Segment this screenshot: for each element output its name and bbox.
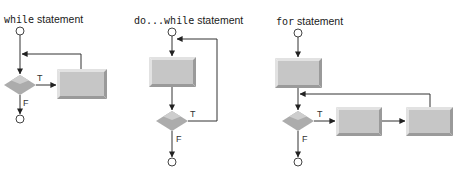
for-initialization-box xyxy=(275,58,322,88)
do-while-title-keyword: do...while xyxy=(134,15,194,26)
do-while-body-box-bevel-top xyxy=(149,57,196,60)
do-while-body-box-face xyxy=(152,60,193,84)
while-true-label: T xyxy=(37,73,43,83)
do-while-body-box-bevel-left xyxy=(149,57,152,87)
repetition-statements-figure: while statement T F do...while statement… xyxy=(0,0,458,178)
do-while-body-box-bevel-bottom xyxy=(149,84,196,87)
while-body-box-face xyxy=(60,72,104,96)
for-start-node xyxy=(294,29,302,37)
for-initialization-box-bevel-bottom xyxy=(275,85,322,88)
do-while-false-label: F xyxy=(176,134,182,144)
for-diagram: for statement T F xyxy=(275,15,453,166)
while-body-box-bevel-top xyxy=(57,69,107,72)
for-loop-back-arrow xyxy=(300,94,430,107)
while-end-node xyxy=(16,115,24,123)
do-while-title-suffix: statement xyxy=(194,14,243,26)
while-start-node xyxy=(16,27,24,35)
for-body-box-bevel-bottom xyxy=(336,133,382,136)
do-while-end-node xyxy=(168,158,176,166)
for-initialization-box-bevel-right xyxy=(319,58,322,88)
for-initialization-box-bevel-top xyxy=(275,58,322,61)
while-title: while statement xyxy=(4,13,83,25)
for-increment-box-bevel-bottom xyxy=(406,133,453,136)
for-increment-box-bevel-top xyxy=(406,107,453,110)
for-body-box-face xyxy=(339,110,379,133)
for-initialization-box-bevel-left xyxy=(275,58,278,88)
for-initialization-box-face xyxy=(278,61,319,85)
while-body-box-bevel-right xyxy=(104,69,107,99)
for-title-suffix: statement xyxy=(294,15,343,27)
while-false-label: F xyxy=(23,98,29,108)
while-loop-back-arrow xyxy=(22,54,81,69)
while-body-box-bevel-left xyxy=(57,69,60,99)
do-while-diagram: do...while statement T F xyxy=(134,14,243,166)
for-end-node xyxy=(294,158,302,166)
for-title-keyword: for xyxy=(276,16,294,27)
do-while-decision-diamond xyxy=(156,111,188,131)
for-decision-diamond xyxy=(282,111,314,131)
do-while-title: do...while statement xyxy=(134,14,243,26)
do-while-true-label: T xyxy=(190,109,196,119)
for-body-box-bevel-left xyxy=(336,107,339,136)
for-body-box-bevel-right xyxy=(379,107,382,136)
for-false-label: F xyxy=(302,134,308,144)
while-title-suffix: statement xyxy=(34,13,83,25)
do-while-start-node xyxy=(168,28,176,36)
while-title-keyword: while xyxy=(4,14,34,25)
for-increment-box xyxy=(406,107,453,136)
while-body-box-bevel-bottom xyxy=(57,96,107,99)
do-while-body-box-bevel-right xyxy=(193,57,196,87)
while-body-box xyxy=(57,69,107,99)
for-increment-box-face xyxy=(409,110,450,133)
while-decision-diamond xyxy=(4,75,36,95)
for-body-box xyxy=(336,107,382,136)
for-true-label: T xyxy=(317,109,323,119)
for-increment-box-bevel-left xyxy=(406,107,409,136)
for-body-box-bevel-top xyxy=(336,107,382,110)
for-title: for statement xyxy=(276,15,343,27)
for-increment-box-bevel-right xyxy=(450,107,453,136)
while-diagram: while statement T F xyxy=(4,13,107,123)
do-while-body-box xyxy=(149,57,196,87)
